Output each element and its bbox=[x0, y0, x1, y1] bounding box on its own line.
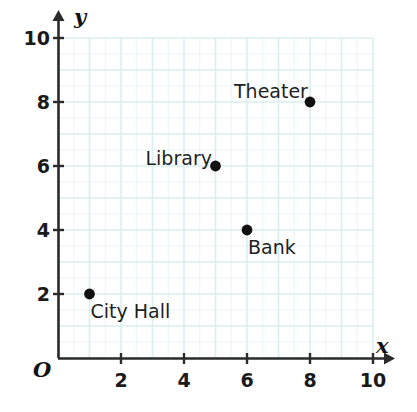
origin-label: O bbox=[33, 359, 51, 380]
point-label-bank: Bank bbox=[248, 238, 296, 257]
plot-canvas bbox=[0, 0, 417, 412]
point-label-theater: Theater bbox=[234, 82, 308, 101]
y-tick-label-6: 6 bbox=[6, 157, 50, 176]
y-axis-arrowhead bbox=[53, 10, 65, 21]
x-tick-label-8: 8 bbox=[288, 371, 332, 390]
x-axis-label: x bbox=[376, 335, 389, 356]
x-tick-label-4: 4 bbox=[162, 371, 206, 390]
y-axis-label: y bbox=[74, 6, 86, 27]
y-tick-label-8: 8 bbox=[6, 93, 50, 112]
point-label-library: Library bbox=[146, 149, 212, 168]
data-point-city-hall bbox=[84, 289, 95, 300]
y-tick-label-2: 2 bbox=[6, 285, 50, 304]
x-tick-label-10: 10 bbox=[351, 371, 395, 390]
x-tick-label-2: 2 bbox=[99, 371, 143, 390]
point-label-city-hall: City Hall bbox=[91, 302, 171, 321]
coordinate-plane-figure: 246810 246810 City HallLibraryBankTheate… bbox=[0, 0, 417, 412]
x-tick-label-6: 6 bbox=[225, 371, 269, 390]
y-tick-label-10: 10 bbox=[6, 29, 50, 48]
y-tick-label-4: 4 bbox=[6, 221, 50, 240]
data-point-bank bbox=[242, 225, 253, 236]
